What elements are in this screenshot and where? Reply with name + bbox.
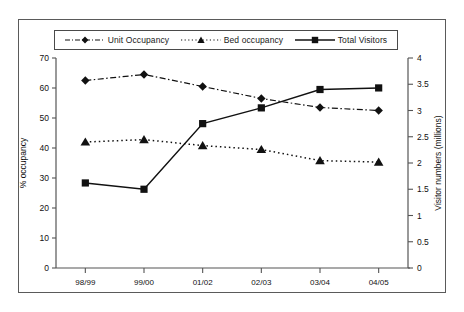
plot-area: 01020304050607000.511.522.533.5498/9999/…: [0, 0, 464, 312]
svg-text:20: 20: [40, 203, 50, 213]
svg-text:02/03: 02/03: [251, 278, 272, 287]
svg-text:01/02: 01/02: [193, 278, 214, 287]
svg-text:1: 1: [417, 211, 422, 221]
svg-text:04/05: 04/05: [369, 278, 390, 287]
chart-container: Unit Occupancy Bed occupancy Total Visit…: [0, 0, 464, 312]
svg-text:30: 30: [40, 173, 50, 183]
svg-text:0: 0: [44, 263, 49, 273]
svg-text:2.5: 2.5: [417, 132, 429, 142]
svg-text:70: 70: [40, 53, 50, 63]
svg-text:% occupancy: % occupancy: [18, 137, 28, 188]
svg-text:1.5: 1.5: [417, 184, 429, 194]
svg-text:0.5: 0.5: [417, 237, 429, 247]
svg-text:4: 4: [417, 53, 422, 63]
svg-text:3: 3: [417, 106, 422, 116]
svg-text:3.5: 3.5: [417, 79, 429, 89]
data-series: [81, 70, 384, 193]
svg-text:2: 2: [417, 158, 422, 168]
svg-text:0: 0: [417, 263, 422, 273]
svg-text:03/04: 03/04: [310, 278, 331, 287]
svg-text:40: 40: [40, 143, 50, 153]
svg-text:60: 60: [40, 83, 50, 93]
svg-text:99/00: 99/00: [134, 278, 155, 287]
svg-text:10: 10: [40, 233, 50, 243]
axes: [52, 58, 413, 273]
svg-text:Visitor numbers (millions): Visitor numbers (millions): [433, 115, 443, 210]
svg-text:98/99: 98/99: [75, 278, 96, 287]
svg-text:50: 50: [40, 113, 50, 123]
